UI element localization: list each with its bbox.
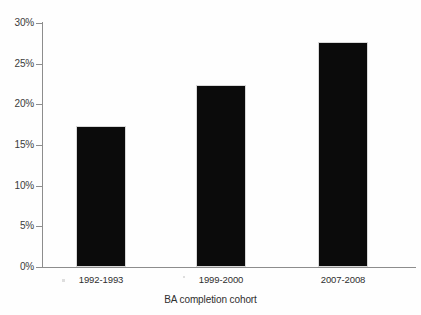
y-axis-tick-label: 25% xyxy=(0,58,34,69)
y-axis-tick-label-wrap: 0% xyxy=(0,261,34,273)
x-axis-line xyxy=(42,267,416,268)
bar-chart: 30%25%20%15%10%5%0% 1992-19931999-200020… xyxy=(0,0,421,315)
y-axis-tick-label: 10% xyxy=(0,180,34,191)
y-axis-tick-label-wrap: 10% xyxy=(0,180,34,192)
y-axis-tick-label: 15% xyxy=(0,139,34,150)
x-axis-tick-label: 1999-2000 xyxy=(176,274,266,285)
y-axis-tick-label: 0% xyxy=(0,261,34,272)
plot-area xyxy=(42,23,415,267)
y-axis-tick-label-wrap: 20% xyxy=(0,98,34,110)
y-axis-tick-label-wrap: 5% xyxy=(0,220,34,232)
y-axis-tick-label-wrap: 30% xyxy=(0,17,34,29)
y-axis-tick xyxy=(36,267,42,268)
bar-1999-2000 xyxy=(196,85,246,267)
scan-speck xyxy=(183,276,185,278)
y-axis-tick-label: 5% xyxy=(0,220,34,231)
x-axis-tick-label: 2007-2008 xyxy=(298,274,388,285)
x-axis-title: BA completion cohort xyxy=(0,294,421,305)
y-axis-tick-label: 30% xyxy=(0,17,34,28)
y-axis-tick-label-wrap: 25% xyxy=(0,58,34,70)
y-axis-tick-label: 20% xyxy=(0,98,34,109)
y-axis-tick-label-wrap: 15% xyxy=(0,139,34,151)
x-axis-tick-label: 1992-1993 xyxy=(56,274,146,285)
bar-1992-1993 xyxy=(76,126,126,267)
bar-2007-2008 xyxy=(318,42,368,267)
scan-speck xyxy=(62,279,65,282)
